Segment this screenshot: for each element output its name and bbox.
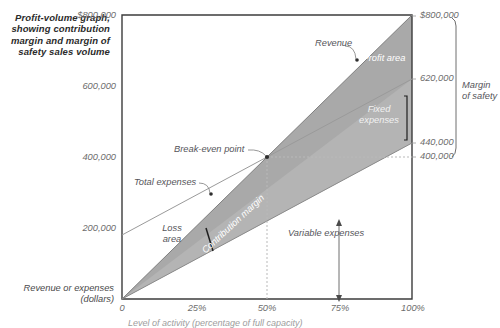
- x-tick-75: 75%: [325, 303, 355, 313]
- y-right-tick-400000: 400,000: [420, 151, 454, 161]
- x-axis-title: Level of activity (percentage of full ca…: [128, 318, 303, 328]
- break-even-leader: [248, 150, 266, 156]
- y-right-tick-800000: $800,000: [420, 10, 459, 20]
- label-total-expenses: Total expenses: [134, 177, 196, 187]
- x-tick-100: 100%: [396, 303, 430, 313]
- label-margin-of-safety: Margin of safety: [462, 80, 500, 101]
- y-tick-600000: 600,000: [48, 81, 116, 91]
- y-right-tick-620000: 620,000: [420, 73, 454, 83]
- label-break-even-point: Break-even point: [174, 144, 244, 154]
- label-loss-area: Loss area: [152, 223, 192, 244]
- y-tick-800000: $800,000: [48, 10, 116, 20]
- y-right-tick-440000: 440,000: [420, 137, 454, 147]
- variable-expenses-arrow-head-top: [336, 219, 342, 226]
- label-revenue: Revenue: [315, 38, 352, 48]
- x-tick-25: 25%: [182, 303, 212, 313]
- label-variable-expenses: Variable expenses: [288, 228, 364, 238]
- y-tick-200000: 200,000: [48, 223, 116, 233]
- total-expenses-leader: [199, 183, 210, 193]
- x-tick-50: 50%: [252, 303, 282, 313]
- y-tick-400000: 400,000: [48, 152, 116, 162]
- label-profit-area: Profit area: [362, 53, 406, 64]
- y-axis-title: Revenue or expenses (dollars): [6, 283, 114, 305]
- label-fixed-expenses: Fixed expenses: [352, 104, 406, 125]
